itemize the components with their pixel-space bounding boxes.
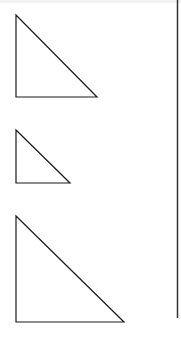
right-triangle-3 bbox=[16, 216, 124, 322]
right-triangle-1 bbox=[16, 15, 97, 97]
right-triangle-2 bbox=[16, 130, 70, 183]
triangles-diagram bbox=[0, 0, 181, 337]
